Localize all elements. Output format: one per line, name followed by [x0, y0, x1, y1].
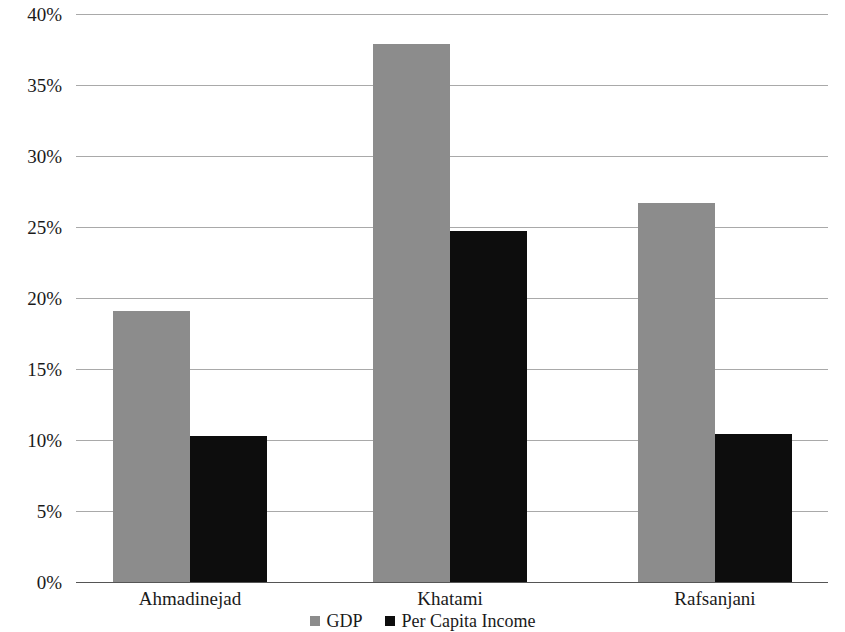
y-axis-tick-label: 30%: [0, 147, 62, 166]
chart-legend: GDPPer Capita Income: [0, 612, 845, 630]
gridline: [76, 156, 828, 157]
y-axis-tick-label: 35%: [0, 76, 62, 95]
black-square-swatch: [385, 616, 395, 626]
y-axis-tick-label: 25%: [0, 218, 62, 237]
y-axis-tick-label: 40%: [0, 5, 62, 24]
bar-rafsanjani-per-capita-income: [715, 434, 792, 582]
x-axis-category-label: Khatami: [417, 588, 482, 610]
y-axis-tick-label: 15%: [0, 360, 62, 379]
legend-label: Per Capita Income: [402, 612, 536, 630]
plot-area: [76, 14, 828, 582]
x-axis-category-label: Rafsanjani: [674, 588, 755, 610]
bar-chart: 0%5%10%15%20%25%30%35%40% AhmadinejadKha…: [0, 0, 845, 632]
y-axis-tick-label: 0%: [0, 573, 62, 592]
x-axis-category-label: Ahmadinejad: [139, 588, 241, 610]
legend-label: GDP: [327, 612, 363, 630]
bar-ahmadinejad-gdp: [113, 311, 190, 582]
y-axis-tick-label: 10%: [0, 431, 62, 450]
bar-khatami-per-capita-income: [450, 231, 527, 582]
gray-square-swatch: [310, 616, 320, 626]
bar-khatami-gdp: [373, 44, 450, 582]
bar-rafsanjani-gdp: [638, 203, 715, 582]
legend-item: Per Capita Income: [385, 612, 536, 630]
axis-baseline: [76, 582, 828, 583]
y-axis-tick-label: 5%: [0, 502, 62, 521]
gridline: [76, 85, 828, 86]
gridline: [76, 227, 828, 228]
gridline: [76, 14, 828, 15]
legend-item: GDP: [310, 612, 363, 630]
y-axis-tick-labels: 0%5%10%15%20%25%30%35%40%: [0, 14, 62, 582]
y-axis-tick-label: 20%: [0, 289, 62, 308]
bar-ahmadinejad-per-capita-income: [190, 436, 267, 582]
